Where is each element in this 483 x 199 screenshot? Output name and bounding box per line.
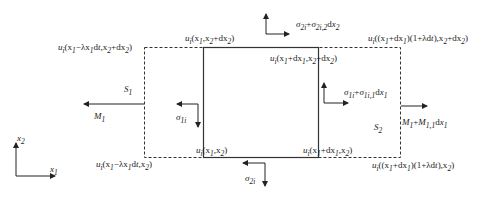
label-bottom-right-solid: ui(x1+dx1,x2) — [303, 145, 352, 159]
label-bottom-left-dashed: ui(x1−λx1dt,x2) — [96, 159, 152, 173]
label-axis-x1: x1 — [50, 164, 58, 178]
label-m1-left: M1 — [94, 111, 105, 125]
label-s1: S1 — [124, 84, 132, 98]
sigma-top-arrows — [266, 14, 289, 34]
label-top-right-solid: ui(x1+dx1,x2+dx2) — [270, 53, 337, 67]
label-sigma-top: σ2i+σ2i,2dx2 — [296, 19, 340, 33]
label-sigma-bottom: σ2i — [245, 173, 255, 187]
label-top-left-solid: ui(x1,x2+dx2) — [185, 33, 234, 47]
label-top-left-dashed: ui(x1−λx1dt,x2+dx2) — [58, 42, 132, 56]
label-s2: S2 — [374, 122, 382, 136]
label-axis-x2: x2 — [17, 133, 25, 147]
label-bottom-left-solid: ui(x1,x2) — [196, 145, 227, 159]
label-top-right-dashed: ui((x1+dx1)(1+λdt),x2+dx2) — [368, 33, 468, 47]
label-m1-right: M1+M1,1dx1 — [402, 117, 447, 131]
label-sigma-left: σ1i — [176, 112, 186, 126]
label-bottom-right-dashed: ui((x1+dx1)(1+λdt),x2) — [372, 160, 454, 174]
label-sigma-right: σ1i+σ1i,1dx1 — [344, 87, 388, 101]
